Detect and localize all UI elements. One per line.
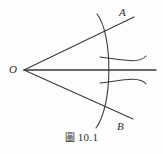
vertex-label-o: O [9, 64, 17, 75]
lower-cross-arc [100, 79, 146, 84]
figure-caption-number: 10.1 [78, 131, 98, 143]
ray-ob [24, 70, 133, 119]
ray-label-a: A [119, 7, 126, 18]
ray-oa [24, 17, 134, 70]
main-arc-centred-at-o [96, 14, 109, 128]
figure-caption-mark: 圖 [65, 132, 75, 143]
figure-caption: 圖10.1 [0, 131, 163, 143]
upper-cross-arc [100, 56, 146, 61]
geometry-figure: O A B 圖10.1 [0, 0, 163, 154]
